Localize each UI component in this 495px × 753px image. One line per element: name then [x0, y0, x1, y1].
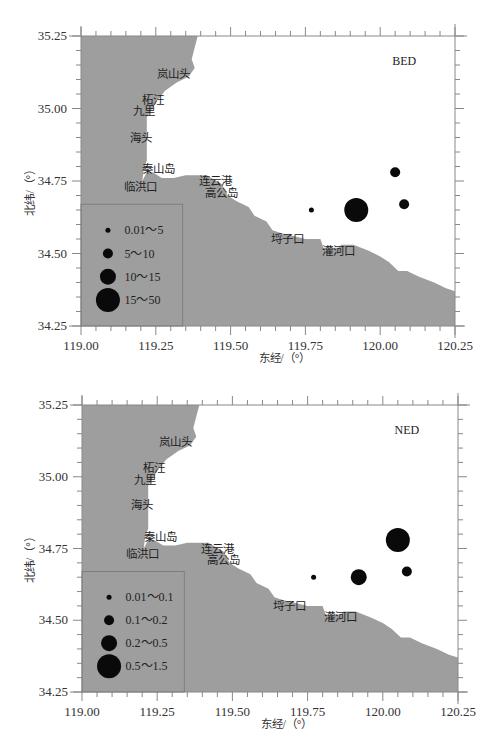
legend-marker-icon: [97, 654, 121, 678]
place-label: 埒子口: [273, 600, 306, 612]
sample-point: [309, 208, 314, 213]
y-tick-label: 35.25: [39, 397, 68, 412]
place-label: 岚山头: [159, 436, 192, 448]
x-axis-title: 东经/（°）: [259, 352, 311, 364]
x-tick-label: 119.75: [288, 338, 323, 353]
place-label: 灌河口: [322, 245, 355, 257]
sample-point: [390, 167, 400, 177]
legend-marker-icon: [100, 269, 116, 285]
place-label: 柘汪: [143, 461, 165, 474]
x-tick-label: 119.50: [213, 338, 248, 353]
x-tick-label: 120.25: [440, 704, 476, 719]
place-label: 灌河口: [324, 611, 357, 623]
y-tick-label: 34.75: [39, 541, 68, 556]
x-tick-label: 119.50: [215, 704, 250, 719]
place-label: 连云港: [199, 174, 233, 187]
x-tick-label: 119.25: [138, 338, 173, 353]
map-panel-bed: 119.00119.25119.50119.75120.00120.2534.2…: [0, 0, 495, 376]
place-label: 岚山头: [157, 68, 190, 80]
sample-point: [386, 528, 410, 552]
place-label: 柘汪: [142, 93, 164, 106]
sample-point: [402, 566, 412, 576]
place-label: 九里: [133, 105, 155, 117]
place-label: 临洪口: [126, 547, 159, 560]
legend-marker-icon: [107, 595, 112, 600]
legend-label: 15～50: [124, 293, 160, 307]
legend-label: 0.01～5: [124, 223, 163, 237]
legend-marker-icon: [96, 288, 120, 312]
sample-point: [351, 569, 367, 585]
legend-label: 10～15: [124, 270, 160, 284]
y-tick-label: 34.25: [38, 318, 67, 333]
x-tick-label: 120.00: [362, 338, 398, 353]
place-label: 海头: [131, 498, 153, 511]
place-label: 高公岛: [205, 186, 238, 199]
sample-point: [311, 575, 316, 580]
y-axis-title: 北纬/（°）: [24, 531, 36, 583]
legend-marker-icon: [103, 249, 113, 259]
place-label: 秦山岛: [144, 530, 177, 543]
x-tick-label: 119.75: [290, 704, 325, 719]
legend-marker-icon: [105, 228, 110, 233]
y-tick-label: 34.25: [39, 684, 68, 699]
legend-label: 5～10: [124, 247, 154, 261]
place-label: 秦山岛: [142, 162, 175, 175]
x-tick-label: 120.25: [437, 338, 473, 353]
sample-point: [344, 198, 368, 222]
legend-label: 0.5～1.5: [126, 659, 168, 673]
map-panel-ned: 119.00119.25119.50119.75120.00120.2534.2…: [0, 376, 495, 752]
place-label: 埒子口: [271, 233, 304, 245]
x-tick-label: 120.00: [365, 704, 401, 719]
place-label: 九里: [134, 474, 156, 486]
y-tick-label: 34.50: [39, 612, 68, 627]
x-axis-title: 东经/（°）: [261, 718, 313, 730]
panel-title: BED: [392, 54, 416, 68]
y-tick-label: 35.00: [38, 101, 67, 116]
legend-label: 0.1～0.2: [126, 613, 168, 627]
legend-label: 0.01～0.1: [126, 590, 174, 604]
legend-label: 0.2～0.5: [126, 636, 168, 650]
x-tick-label: 119.00: [63, 338, 98, 353]
place-label: 临洪口: [124, 180, 157, 193]
map-chart-ned: 119.00119.25119.50119.75120.00120.2534.2…: [0, 376, 495, 752]
y-axis-title: 北纬/（°）: [24, 164, 36, 216]
sample-point: [399, 199, 409, 209]
legend-marker-icon: [101, 635, 117, 651]
place-label: 高公岛: [207, 553, 240, 566]
x-tick-label: 119.25: [140, 704, 175, 719]
place-label: 连云港: [201, 542, 235, 555]
y-tick-label: 35.00: [39, 469, 68, 484]
legend-marker-icon: [104, 615, 114, 625]
x-tick-label: 119.00: [64, 704, 99, 719]
y-tick-label: 34.50: [38, 246, 67, 261]
map-chart-bed: 119.00119.25119.50119.75120.00120.2534.2…: [0, 0, 495, 376]
panel-title: NED: [395, 423, 420, 437]
y-tick-label: 35.25: [38, 28, 67, 43]
y-tick-label: 34.75: [38, 173, 67, 188]
place-label: 海头: [130, 131, 152, 144]
